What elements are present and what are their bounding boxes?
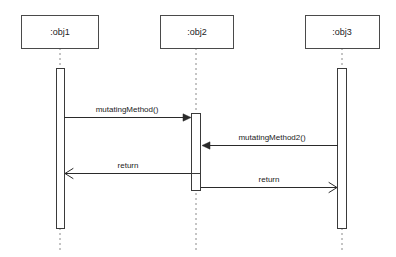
activation-bar-obj1[interactable]: [57, 69, 65, 229]
participant-boxes-group: :obj1 :obj2 :obj3: [22, 16, 380, 49]
participant-box-obj3[interactable]: :obj3: [306, 16, 380, 49]
sequence-diagram-svg: :obj1 :obj2 :obj3 mutatingMethod(): [0, 0, 396, 257]
participant-box-obj1[interactable]: :obj1: [22, 16, 99, 49]
activation-bar-obj2[interactable]: [192, 114, 201, 191]
participant-label-obj2: :obj2: [187, 27, 207, 37]
activation-bar-obj3[interactable]: [338, 69, 347, 229]
message-label-mutating-method2: mutatingMethod2(): [238, 133, 305, 142]
message-label-mutating-method: mutatingMethod(): [96, 105, 159, 114]
participant-box-obj2[interactable]: :obj2: [161, 16, 234, 49]
participant-label-obj3: :obj3: [332, 27, 352, 37]
sequence-diagram-canvas: :obj1 :obj2 :obj3 mutatingMethod(): [0, 0, 396, 257]
participant-label-obj1: :obj1: [50, 27, 70, 37]
message-label-return-to-obj3: return: [259, 175, 280, 184]
message-label-return-to-obj1: return: [118, 161, 139, 170]
